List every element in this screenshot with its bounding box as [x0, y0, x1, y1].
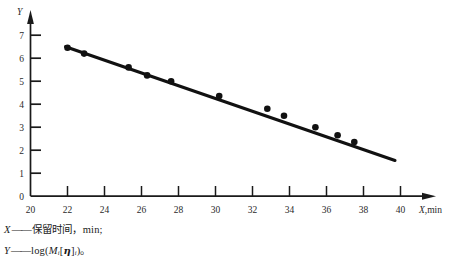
data-point — [334, 132, 341, 139]
x-tick-label: 32 — [248, 205, 258, 215]
x-tick-label: 36 — [322, 205, 332, 215]
fitted-trend-line — [66, 47, 395, 161]
caption-x-comma: ， — [72, 224, 82, 235]
caption-x-unit: min — [83, 224, 100, 235]
data-point — [281, 112, 288, 119]
data-series-fitted-line — [66, 47, 395, 161]
x-tick-label: 40 — [396, 205, 406, 215]
caption-line-x: X——保留时间，min; — [4, 219, 304, 240]
y-axis-title: Y — [17, 7, 24, 17]
data-point — [81, 50, 88, 57]
x-tick-label: 22 — [63, 205, 73, 215]
y-tick-label: 4 — [19, 100, 24, 110]
data-point — [125, 64, 132, 71]
y-tick-label: 6 — [19, 54, 24, 64]
caption-x-text: 保留时间 — [32, 223, 73, 235]
caption-x-variable: X — [4, 224, 11, 235]
caption-x-terminator: ; — [100, 224, 103, 235]
y-tick-label: 3 — [19, 123, 24, 133]
caption-y-eta-symbol: η — [63, 245, 70, 256]
y-tick-label: 5 — [19, 77, 24, 87]
y-tick-label: 7 — [19, 31, 24, 41]
y-axis-arrowhead — [27, 10, 34, 24]
data-point — [312, 124, 319, 131]
data-point — [168, 78, 175, 85]
data-point — [144, 72, 151, 79]
data-point — [351, 139, 358, 146]
x-tick-label: 20 — [26, 205, 36, 215]
data-point — [64, 45, 71, 52]
y-tick-label: 0 — [19, 192, 24, 202]
x-tick-label: 26 — [137, 205, 147, 215]
x-tick-label: 24 — [100, 205, 110, 215]
caption-y-m-symbol: M — [49, 245, 58, 256]
data-point — [216, 93, 223, 100]
caption-x-dash: —— — [11, 224, 32, 235]
data-point — [264, 106, 271, 113]
caption-y-function: log( — [31, 245, 49, 256]
x-tick-label: 30 — [211, 205, 221, 215]
x-tick-label: 38 — [359, 205, 369, 215]
figure-caption: X——保留时间，min; Y——log(Mi[η]i)。 — [4, 219, 304, 263]
x-tick-label: 34 — [285, 205, 295, 215]
x-axis-ticks: 20 22 24 26 28 30 32 34 36 38 40 — [26, 186, 406, 215]
x-axis-title: X,min — [418, 205, 442, 215]
caption-y-terminator: 。 — [80, 245, 90, 256]
data-series-calibration-points — [64, 45, 357, 146]
y-tick-label: 1 — [19, 169, 24, 179]
y-tick-label: 2 — [19, 146, 24, 156]
x-axis-arrowhead — [422, 193, 436, 200]
x-tick-label: 28 — [174, 205, 184, 215]
caption-y-dash: —— — [10, 245, 31, 256]
caption-line-y: Y——log(Mi[η]i)。 — [4, 240, 304, 263]
